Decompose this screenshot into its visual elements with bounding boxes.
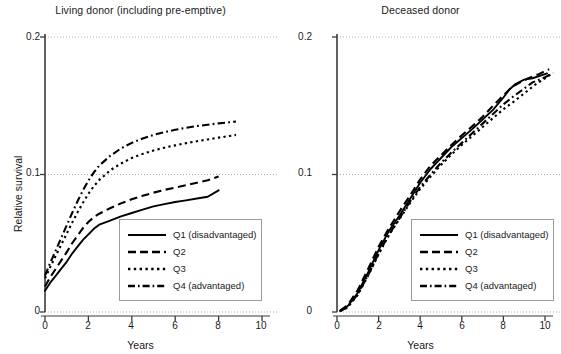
- legend-entry-q1: Q1 (disadvantaged): [412, 226, 553, 243]
- legend-key-dotted-icon: [419, 263, 459, 275]
- legend-key-dashdot-icon: [127, 280, 167, 292]
- xtick-label-10-right: 10: [531, 320, 559, 331]
- ytick-label-0.1-right: 0.1: [284, 167, 312, 178]
- legend-label-q2: Q2: [465, 247, 478, 257]
- legend-key-dashed-icon: [419, 246, 459, 258]
- legend-label-q4: Q4 (advantaged): [173, 281, 244, 291]
- legend-deceased-donor: Q1 (disadvantaged) Q2 Q3 Q4 (advantaged): [411, 219, 554, 301]
- panel-deceased-donor: Deceased donor 0.2 0.1 0 0 2 4 6 8 10 Ye…: [280, 0, 561, 354]
- axis-title-x-right: Years: [280, 339, 561, 351]
- xtick-label-6-left: 6: [161, 320, 189, 331]
- legend-key-solid-icon: [127, 229, 167, 241]
- legend-entry-q3: Q3: [120, 260, 261, 277]
- legend-entry-q4: Q4 (advantaged): [412, 277, 553, 294]
- legend-key-dashdot-icon: [419, 280, 459, 292]
- xtick-label-8-right: 8: [489, 320, 517, 331]
- legend-label-q3: Q3: [465, 264, 478, 274]
- ytick-label-0-right: 0: [284, 305, 312, 316]
- legend-entry-q3: Q3: [412, 260, 553, 277]
- xtick-label-8-left: 8: [204, 320, 232, 331]
- legend-label-q2: Q2: [173, 247, 186, 257]
- legend-label-q1: Q1 (disadvantaged): [173, 230, 256, 240]
- legend-entry-q4: Q4 (advantaged): [120, 277, 261, 294]
- legend-entry-q1: Q1 (disadvantaged): [120, 226, 261, 243]
- xtick-label-4-left: 4: [117, 320, 145, 331]
- legend-key-dotted-icon: [127, 263, 167, 275]
- legend-living-donor: Q1 (disadvantaged) Q2 Q3 Q4 (advantaged): [119, 219, 262, 301]
- xtick-label-6-right: 6: [448, 320, 476, 331]
- xtick-label-10-left: 10: [247, 320, 275, 331]
- legend-label-q3: Q3: [173, 264, 186, 274]
- panel-living-donor: Living donor (including pre-emptive) 0.2…: [0, 0, 281, 354]
- xtick-label-2-right: 2: [365, 320, 393, 331]
- legend-key-dashed-icon: [127, 246, 167, 258]
- legend-label-q4: Q4 (advantaged): [465, 281, 536, 291]
- legend-entry-q2: Q2: [412, 243, 553, 260]
- legend-entry-q2: Q2: [120, 243, 261, 260]
- xtick-label-2-left: 2: [74, 320, 102, 331]
- axis-title-y-left: Relative survival: [12, 156, 24, 232]
- xtick-label-0-left: 0: [31, 320, 59, 331]
- xtick-label-0-right: 0: [323, 320, 351, 331]
- legend-key-solid-icon: [419, 229, 459, 241]
- axis-title-x-left: Years: [0, 339, 281, 351]
- legend-label-q1: Q1 (disadvantaged): [465, 230, 548, 240]
- figure-root: Living donor (including pre-emptive) 0.2…: [0, 0, 561, 354]
- ytick-label-0.2-right: 0.2: [284, 31, 312, 42]
- ytick-label-0.2-left: 0.2: [12, 31, 40, 42]
- xtick-label-4-right: 4: [406, 320, 434, 331]
- ytick-label-0-left: 0: [12, 305, 40, 316]
